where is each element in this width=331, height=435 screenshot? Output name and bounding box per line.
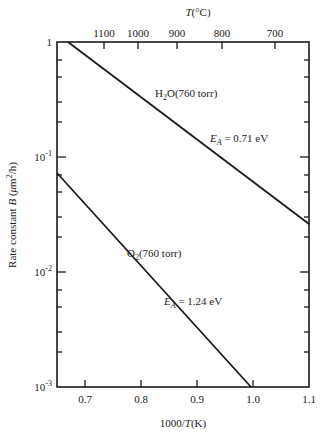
top-axis-title: T(°C) [185, 6, 211, 19]
svg-text:1.1: 1.1 [302, 393, 316, 405]
x-axis-title: 1000/T(K) [160, 417, 207, 430]
x-tick-labels: 0.7 0.8 0.9 1.0 1.1 [78, 393, 316, 405]
svg-text:10-2: 10-2 [34, 264, 52, 278]
svg-text:0.7: 0.7 [78, 393, 92, 405]
svg-text:800: 800 [214, 27, 231, 39]
svg-text:10-3: 10-3 [34, 379, 52, 393]
svg-text:900: 900 [169, 27, 186, 39]
o2-activation-energy-label: EA = 1.24 eV [163, 295, 222, 310]
y-axis-title: Rate constant B (μm2/h) [5, 162, 19, 268]
series-o2-line [57, 173, 251, 387]
svg-text:0.9: 0.9 [190, 393, 204, 405]
o2-series-label: O2(760 torr) [127, 247, 182, 262]
top-tick-labels: 1100 1000 900 800 700 [93, 27, 284, 39]
svg-text:1000: 1000 [127, 27, 150, 39]
svg-text:1.0: 1.0 [246, 393, 260, 405]
svg-text:1: 1 [47, 36, 53, 48]
h2o-activation-energy-label: EA = 0.71 eV [209, 132, 268, 147]
y-tick-labels: 1 10-1 10-2 10-3 [34, 36, 52, 393]
top-axis-ticks [104, 42, 275, 49]
svg-text:10-1: 10-1 [34, 149, 52, 163]
y-axis-ticks [57, 60, 309, 352]
x-axis-ticks [85, 380, 253, 387]
h2o-series-label: H2O(760 torr) [155, 87, 218, 102]
svg-text:0.8: 0.8 [134, 393, 148, 405]
svg-text:1100: 1100 [93, 27, 115, 39]
arrhenius-chart: T(°C) 1100 1000 900 800 700 0.7 0.8 0.9 … [0, 0, 331, 435]
svg-text:700: 700 [267, 27, 284, 39]
series-h2o-line [68, 42, 309, 224]
